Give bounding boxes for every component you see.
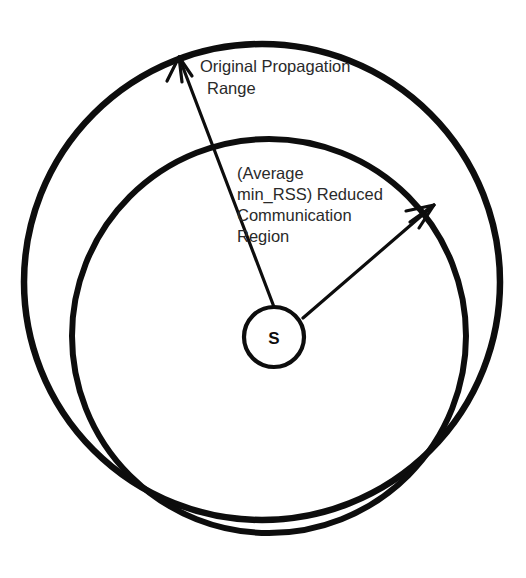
source-node: S	[244, 307, 304, 367]
outer-region-label-line-1: Original Propagation	[200, 57, 350, 75]
inner-region-label-line-1: (Average	[237, 164, 304, 182]
source-node-label: S	[268, 329, 279, 348]
propagation-range-diagram: S Original Propagation Range (Average mi…	[0, 0, 526, 578]
diagram-root: S Original Propagation Range (Average mi…	[0, 0, 526, 578]
inner-region-label-line-2: min_RSS) Reduced	[237, 185, 383, 204]
inner-region-label-line-4: Region	[237, 227, 289, 245]
outer-region-label-line-2: Range	[207, 79, 256, 97]
outer-region-label: Original Propagation Range	[200, 57, 350, 97]
inner-region-label-line-3: Communication	[237, 206, 352, 224]
inner-region-label: (Average min_RSS) Reduced Communication …	[237, 164, 383, 245]
